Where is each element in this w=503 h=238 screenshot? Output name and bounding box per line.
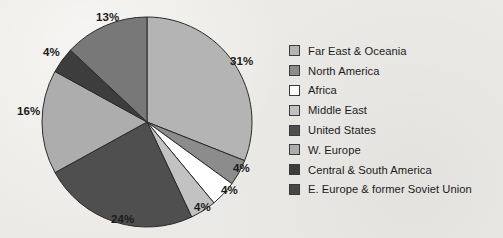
legend-item-label: Central & South America [308,164,432,176]
slice-label-central-south-america: 4% [43,46,60,58]
legend-swatch-icon [289,65,300,76]
page-root: 31% 4% 4% 4% 24% 16% 4% 13% Far East & O… [0,0,503,238]
legend-swatch-icon [289,125,300,136]
legend: Far East & OceaniaNorth AmericaAfricaMid… [289,41,501,199]
legend-swatch-icon [289,164,300,175]
legend-item[interactable]: W. Europe [289,140,501,160]
slice-label-middle-east: 4% [194,201,211,213]
legend-item-label: Africa [308,84,337,96]
pie-chart: 31% 4% 4% 4% 24% 16% 4% 13% [0,0,278,238]
slice-label-africa: 4% [221,184,238,196]
legend-swatch-icon [289,105,300,116]
legend-item-label: Far East & Oceania [308,45,407,57]
slice-label-north-america: 4% [233,162,250,174]
slice-label-united-states: 24% [111,213,134,225]
slice-label-far-east: 31% [230,55,253,67]
legend-item[interactable]: E. Europe & former Soviet Union [289,180,501,200]
legend-item-label: Middle East [308,104,367,116]
legend-item[interactable]: North America [289,61,501,81]
legend-item[interactable]: Far East & Oceania [289,41,501,61]
legend-item[interactable]: Central & South America [289,160,501,180]
legend-item[interactable]: Africa [289,81,501,101]
legend-item-label: North America [308,65,380,77]
legend-item-label: United States [308,124,376,136]
legend-swatch-icon [289,85,300,96]
legend-swatch-icon [289,184,300,195]
legend-item[interactable]: United States [289,120,501,140]
legend-item-label: E. Europe & former Soviet Union [308,183,472,195]
legend-item[interactable]: Middle East [289,100,501,120]
legend-swatch-icon [289,45,300,56]
slice-label-e-europe: 13% [96,11,119,23]
legend-item-label: W. Europe [308,144,361,156]
pie-chart-svg [0,0,278,238]
legend-swatch-icon [289,144,300,155]
slice-label-w-europe: 16% [17,105,40,117]
